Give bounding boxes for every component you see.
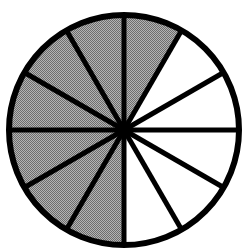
pie-chart-svg — [0, 0, 247, 249]
fraction-circle-figure — [0, 0, 247, 249]
